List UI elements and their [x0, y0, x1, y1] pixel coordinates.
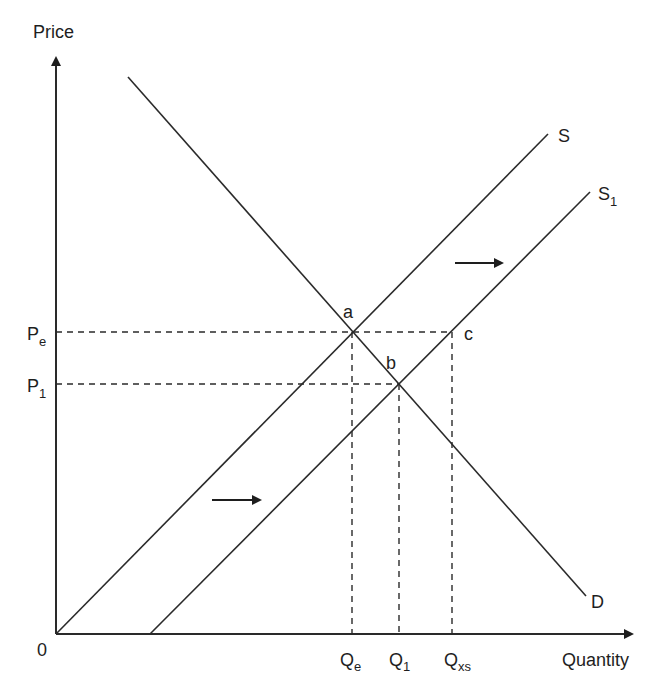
- x-tick-qe: Qe: [340, 650, 361, 674]
- point-label-b: b: [386, 353, 396, 373]
- supply-demand-diagram: Price Quantity 0 S S1 D a b c Pe P1 Qe Q…: [0, 0, 665, 694]
- curve-label-s1: S1: [598, 184, 617, 209]
- y-tick-p1: P1: [27, 376, 46, 401]
- point-label-a: a: [343, 302, 354, 322]
- curve-label-s: S: [558, 126, 570, 146]
- demand-curve-d: [128, 77, 586, 596]
- curve-label-d: D: [591, 592, 604, 612]
- point-label-c: c: [464, 324, 473, 344]
- origin-label: 0: [37, 640, 47, 660]
- supply-curve-s1: [150, 192, 590, 634]
- x-axis-label: Quantity: [562, 650, 629, 670]
- supply-curve-s: [56, 134, 548, 634]
- x-tick-qxs: Qxs: [444, 650, 472, 674]
- y-tick-pe: Pe: [27, 324, 46, 349]
- x-tick-q1: Q1: [389, 650, 410, 674]
- y-axis-label: Price: [33, 22, 74, 42]
